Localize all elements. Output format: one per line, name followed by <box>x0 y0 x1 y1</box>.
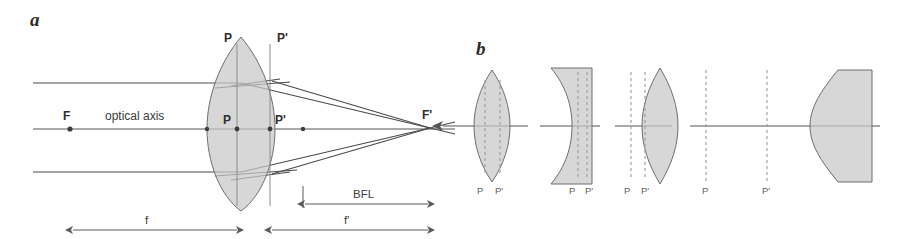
label-back-focal-length: f' <box>344 214 349 226</box>
converging-ray-lower-2 <box>272 128 430 174</box>
lens-element-1-biconvex: P P' <box>443 70 528 196</box>
converging-ray-upper-2 <box>272 81 430 128</box>
lens-element-2-biconcave: P P' <box>540 68 600 196</box>
lens-element-3-meniscus: P P' <box>615 68 678 196</box>
label-focal-point-f-prime: F' <box>422 108 432 122</box>
label-principal-plane-top-p-prime: P' <box>277 31 288 45</box>
lens-biconvex-main <box>207 37 275 211</box>
lens-4-label-p: P <box>702 185 708 196</box>
lens-3-label-p-prime: P' <box>641 185 649 196</box>
principal-point-p-dot <box>235 127 240 132</box>
lens-4-label-p-prime: P' <box>762 185 770 196</box>
principal-point-p-prime-dot <box>268 127 273 132</box>
lens-front-vertex-dot <box>205 127 209 131</box>
label-bfl: BFL <box>353 188 375 200</box>
focal-point-f-dot <box>67 126 72 131</box>
optics-figure: a <box>0 0 909 239</box>
lens-3-body <box>642 68 678 184</box>
lens-2-label-p-prime: P' <box>585 185 593 196</box>
panel-a: a <box>30 9 455 230</box>
figure-canvas: a <box>0 0 909 239</box>
label-principal-point-p: P <box>223 113 231 127</box>
panel-a-letter: a <box>30 9 40 30</box>
lens-1-label-p: P <box>477 185 483 196</box>
lens-2-label-p: P <box>569 185 575 196</box>
lens-1-label-p-prime: P' <box>495 185 503 196</box>
lens-3-label-p: P <box>624 185 630 196</box>
label-focal-point-f: F <box>63 109 70 123</box>
label-principal-plane-top-p: P <box>224 31 232 45</box>
lens-rear-vertex-dot <box>301 127 305 131</box>
diverging-ray-upper <box>430 122 455 128</box>
panel-b-letter: b <box>476 38 486 59</box>
lens-element-4-thick-meniscus: P P' <box>690 70 880 196</box>
panel-b: b P P' P P' <box>443 38 880 196</box>
label-optical-axis: optical axis <box>105 109 164 123</box>
lens-1-body <box>474 70 510 182</box>
label-principal-point-p-prime: P' <box>275 113 286 127</box>
label-front-focal-length: f <box>145 214 149 226</box>
lens-4-body <box>810 70 872 182</box>
